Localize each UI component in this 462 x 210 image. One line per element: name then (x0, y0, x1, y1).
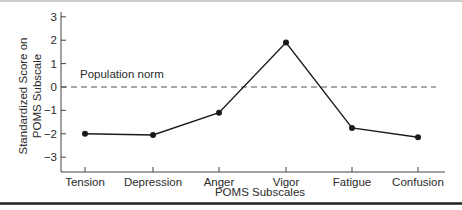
data-point (283, 40, 289, 46)
data-point (415, 134, 421, 140)
data-point (349, 125, 355, 131)
y-tick-label: −1 (44, 104, 57, 116)
y-tick-label: −2 (44, 128, 57, 140)
x-ticks: TensionDepressionAngerVigorFatigueConfus… (65, 167, 444, 188)
y-axis-title-line-1: Standardized Score on (17, 38, 29, 155)
population-norm-label: Population norm (80, 68, 164, 80)
y-tick-label: 3 (51, 11, 57, 23)
y-tick-label: 1 (51, 58, 57, 70)
data-points (82, 40, 421, 141)
data-point (150, 132, 156, 138)
series-line (85, 43, 418, 138)
y-axis-title-line-2: POMS Subscale (31, 54, 43, 138)
x-axis-title: POMS Subscales (215, 186, 305, 198)
x-category-label: Tension (65, 176, 105, 188)
poms-line-chart: Standardized Score on POMS Subscale 3210… (0, 0, 462, 210)
y-tick-label: 0 (51, 81, 57, 93)
y-tick-label: 2 (51, 34, 57, 46)
x-category-label: Depression (124, 176, 182, 188)
y-axis-title: Standardized Score on POMS Subscale (17, 38, 43, 155)
data-point (82, 131, 88, 137)
x-category-label: Fatigue (333, 176, 371, 188)
x-category-label: Confusion (392, 176, 444, 188)
data-point (216, 110, 222, 116)
y-tick-label: −3 (44, 151, 57, 163)
